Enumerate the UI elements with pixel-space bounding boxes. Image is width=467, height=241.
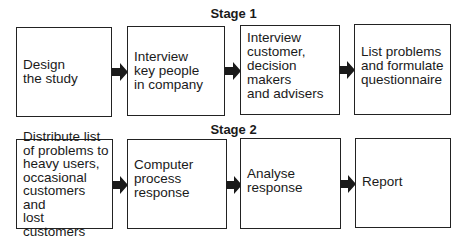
arrow-right-icon (112, 63, 128, 81)
step-label: Report (356, 175, 406, 189)
step-analyse-response: Analyse response (240, 138, 341, 229)
arrow-right-icon (225, 62, 241, 80)
step-label: Interview key people in company (128, 50, 206, 92)
step-distribute-list: Distribute list of problems to heavy use… (16, 139, 113, 229)
step-list-problems: List problems and formulate questionnair… (354, 24, 451, 115)
step-computer-process: Computer process response (127, 139, 227, 229)
step-interview-key-people: Interview key people in company (127, 26, 225, 116)
stage-1-title: Stage 1 (0, 6, 467, 21)
step-label: Design the study (17, 58, 81, 86)
step-label: Distribute list of problems to heavy use… (17, 130, 112, 238)
arrow-right-icon (339, 61, 355, 79)
arrow-right-icon (112, 176, 128, 194)
arrow-right-icon (340, 175, 356, 193)
step-report: Report (355, 138, 451, 228)
step-label: Computer process response (128, 158, 196, 200)
step-label: Interview customer, decision makers and … (241, 31, 339, 101)
step-label: List problems and formulate questionnair… (355, 45, 447, 87)
step-label: Analyse response (241, 167, 306, 195)
step-design-study: Design the study (16, 27, 112, 117)
step-interview-customers: Interview customer, decision makers and … (240, 25, 340, 115)
